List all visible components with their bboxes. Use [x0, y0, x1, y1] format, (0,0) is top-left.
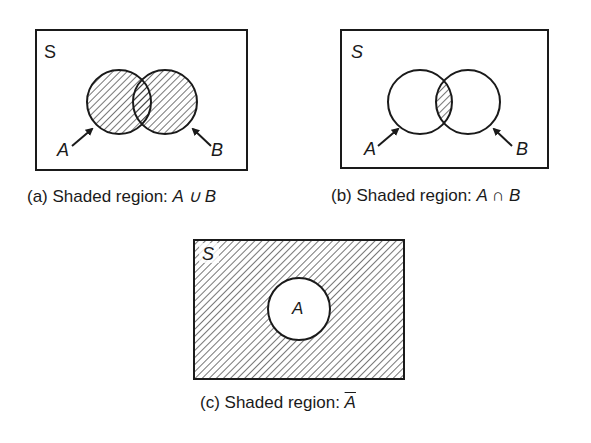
caption-text: Shaded region:	[53, 187, 173, 206]
arrow-a-icon	[72, 129, 92, 146]
caption-expr: A ∪ B	[173, 187, 217, 206]
caption-a: (a) Shaded region: A ∪ B	[27, 186, 216, 207]
arrow-b-icon	[193, 129, 211, 146]
arrow-a-icon	[378, 129, 398, 146]
universe-label-c: S	[202, 244, 214, 265]
universe-label-a: S	[44, 42, 56, 63]
caption-text: Shaded region:	[357, 186, 477, 205]
universe-label-b: S	[351, 42, 363, 63]
set-label-b: B	[516, 139, 528, 160]
set-label-b: B	[211, 140, 223, 161]
venn-diagrams	[0, 0, 591, 443]
set-label-a: A	[364, 139, 376, 160]
caption-b: (b) Shaded region: A ∩ B	[331, 186, 520, 206]
caption-text: Shaded region:	[225, 393, 345, 412]
caption-expr: A	[345, 393, 356, 412]
caption-prefix: (b)	[331, 186, 352, 205]
arrow-b-icon	[494, 129, 512, 146]
set-label-a: A	[292, 299, 303, 319]
caption-prefix: (c)	[200, 393, 220, 412]
caption-prefix: (a)	[27, 187, 48, 206]
caption-c: (c) Shaded region: A	[200, 393, 356, 413]
set-label-a: A	[57, 140, 69, 161]
caption-expr: A ∩ B	[477, 186, 521, 205]
